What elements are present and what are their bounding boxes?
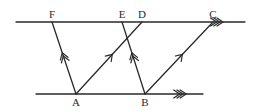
label-E: E <box>119 8 126 20</box>
segment-BC <box>145 22 213 94</box>
parallel-lines-diagram: F E D C A B <box>0 0 263 111</box>
segment-AF <box>52 22 76 94</box>
label-F: F <box>49 8 55 20</box>
label-B: B <box>141 96 148 108</box>
segment-BE <box>122 22 145 94</box>
label-A: A <box>72 96 80 108</box>
label-D: D <box>138 8 146 20</box>
markers-layer <box>60 18 223 98</box>
label-C: C <box>209 8 216 20</box>
